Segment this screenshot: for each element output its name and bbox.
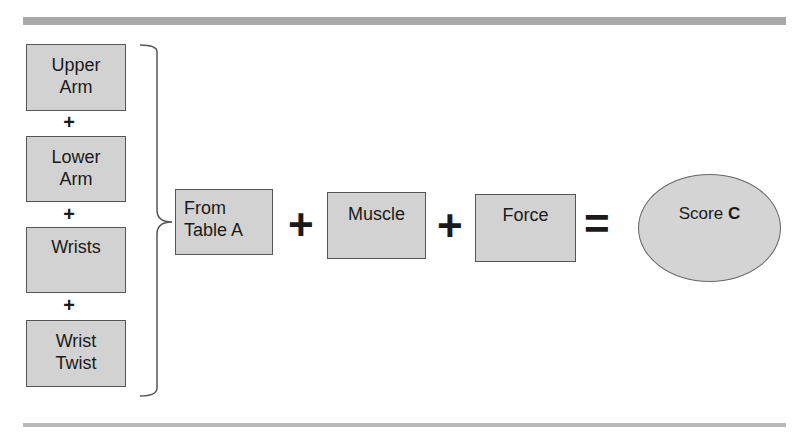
plus-sign: + xyxy=(59,204,79,224)
plus-operator: + xyxy=(288,203,314,247)
from-table-a-box: From Table A xyxy=(175,189,273,255)
wrist-twist-box: Wrist Twist xyxy=(26,320,126,387)
upper-arm-line2: Arm xyxy=(27,76,125,98)
lower-arm-box: Lower Arm xyxy=(26,136,126,202)
force-box: Force xyxy=(475,194,576,262)
lower-arm-line2: Arm xyxy=(27,168,125,190)
right-brace-icon xyxy=(136,40,176,400)
upper-arm-box: Upper Arm xyxy=(26,44,126,111)
wrist-twist-line1: Wrist xyxy=(27,330,125,352)
muscle-label: Muscle xyxy=(328,203,425,225)
wrists-box: Wrists xyxy=(26,227,126,293)
score-c-oval: Score C xyxy=(638,174,781,282)
plus-sign: + xyxy=(59,295,79,315)
table-box-line2: Table A xyxy=(184,219,272,241)
table-box-line1: From xyxy=(184,197,272,219)
plus-sign: + xyxy=(59,112,79,132)
plus-operator: + xyxy=(437,204,463,248)
upper-arm-line1: Upper xyxy=(27,54,125,76)
bottom-rule xyxy=(23,423,786,427)
force-label: Force xyxy=(476,204,575,226)
equals-operator: = xyxy=(584,202,610,246)
muscle-box: Muscle xyxy=(327,192,426,259)
wrist-twist-line2: Twist xyxy=(27,352,125,374)
lower-arm-line1: Lower xyxy=(27,146,125,168)
score-prefix: Score xyxy=(679,204,728,223)
top-rule xyxy=(23,17,786,25)
wrists-label: Wrists xyxy=(27,236,125,258)
score-letter: C xyxy=(728,204,740,223)
